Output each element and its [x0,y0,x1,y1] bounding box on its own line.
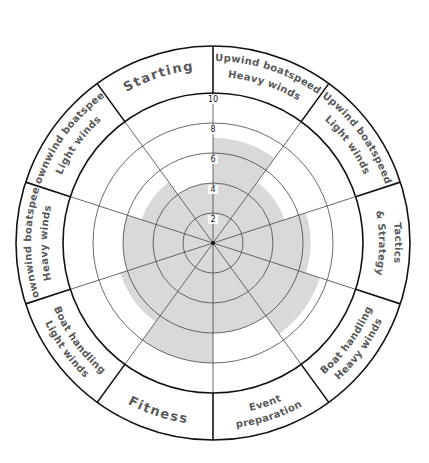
category-label: Downwind boatspeed [0,0,41,300]
tick-label: 6 [210,155,215,164]
performance-wheel-chart: 246810Upwind boatspeedHeavy windsUpwind … [0,0,429,463]
band-divider [97,84,125,122]
radar-chart-svg: 246810Upwind boatspeedHeavy windsUpwind … [0,0,429,463]
tick-label: 2 [210,215,215,224]
category-label: Heavy winds [38,204,53,282]
category-label: & Strategy [374,210,388,277]
category-label: Upwind boatspeed [320,90,393,186]
band-divider [356,182,401,197]
category-label: Tactics [392,222,404,264]
center-dot [211,241,215,245]
tick-label: 10 [208,95,218,104]
category-label: Fitness [126,393,190,426]
band-divider [356,289,401,304]
tick-label: 8 [210,125,215,134]
tick-label: 4 [210,185,215,194]
